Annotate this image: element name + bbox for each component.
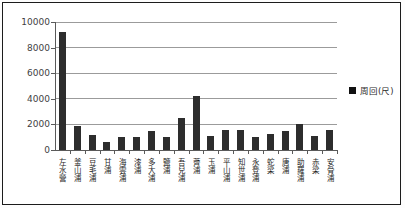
x-axis-tick	[100, 151, 101, 154]
x-axis-tick	[144, 151, 145, 154]
x-axis-category-label: 鹽浦	[162, 158, 170, 174]
x-axis-tick	[218, 151, 219, 154]
black-square-icon	[349, 87, 356, 94]
x-axis-category-label: 多大浦	[147, 158, 155, 182]
bar	[222, 130, 229, 150]
x-axis-tick	[248, 151, 249, 154]
x-axis-tick	[292, 151, 293, 154]
bar	[163, 137, 170, 150]
bar	[207, 136, 214, 150]
bar	[178, 118, 185, 150]
bar	[267, 134, 274, 150]
y-axis-tick	[51, 150, 55, 151]
x-axis-tick	[337, 151, 338, 154]
x-axis-category-label: 安骨浦	[325, 158, 333, 182]
bar	[59, 32, 66, 150]
gridline	[55, 22, 337, 23]
x-axis-category-label: 永登浦	[251, 158, 259, 182]
x-axis-category-label: 知世浦	[236, 158, 244, 182]
x-axis-category-label: 玉浦	[206, 158, 214, 174]
gridline	[55, 47, 337, 48]
legend-label: 周回(尺)	[360, 84, 394, 96]
bar	[148, 131, 155, 150]
y-axis-tick	[51, 22, 55, 23]
bar	[237, 130, 244, 150]
x-axis-tick	[322, 151, 323, 154]
x-axis-category-label: 助羅浦	[295, 158, 303, 182]
y-axis-tick-label: 4000	[8, 94, 50, 104]
x-axis-category-label: 吾兒浦	[177, 158, 185, 182]
x-axis-tick	[233, 151, 234, 154]
bar	[89, 135, 96, 150]
y-axis-tick-label: 6000	[8, 68, 50, 78]
x-axis-category-label: 平山浦	[221, 158, 229, 182]
x-axis-tick	[70, 151, 71, 154]
bar	[103, 142, 110, 150]
legend: 周回(尺)	[349, 84, 394, 96]
y-axis-tick	[51, 124, 55, 125]
x-axis-tick	[174, 151, 175, 154]
gridline	[55, 73, 337, 74]
y-axis-tick	[51, 48, 55, 49]
bar	[282, 131, 289, 150]
x-axis-category-label: 赤梁	[310, 158, 318, 174]
bar	[193, 96, 200, 150]
x-axis-category-label: 豆毛浦	[88, 158, 96, 182]
x-axis-tick	[114, 151, 115, 154]
y-axis-tick-label: 0	[8, 145, 50, 155]
x-axis-category-label: 釜山浦	[73, 158, 81, 182]
y-axis-tick	[51, 73, 55, 74]
x-axis-category-label: 漆浦	[132, 158, 140, 174]
x-axis-category-label: 唐浦	[281, 158, 289, 174]
x-axis-category-label: 左水營	[58, 158, 66, 182]
y-axis-tick-label: 10000	[8, 17, 50, 27]
x-axis-tick	[159, 151, 160, 154]
chart-canvas: 0200040006000800010000左水營釜山浦豆毛浦甘浦海雲浦漆浦多大…	[0, 0, 405, 208]
bar	[133, 137, 140, 150]
x-axis-tick	[278, 151, 279, 154]
y-axis-tick	[51, 99, 55, 100]
bar	[326, 130, 333, 150]
x-axis-line	[52, 150, 338, 151]
x-axis-tick	[189, 151, 190, 154]
plot-area	[55, 22, 337, 150]
bar	[252, 137, 259, 150]
x-axis-category-label: 甘浦	[102, 158, 110, 174]
y-axis-tick-label: 8000	[8, 43, 50, 53]
x-axis-category-label: 海雲浦	[117, 158, 125, 182]
bar	[296, 124, 303, 150]
x-axis-category-label: 蛇梁	[266, 158, 274, 174]
x-axis-tick	[263, 151, 264, 154]
x-axis-tick	[307, 151, 308, 154]
x-axis-tick	[85, 151, 86, 154]
x-axis-category-label: 薺浦	[192, 158, 200, 174]
bar	[74, 126, 81, 150]
bar	[118, 137, 125, 150]
x-axis-tick	[129, 151, 130, 154]
x-axis-tick	[203, 151, 204, 154]
bar	[311, 136, 318, 150]
y-axis-line	[55, 22, 56, 151]
y-axis-tick-label: 2000	[8, 119, 50, 129]
